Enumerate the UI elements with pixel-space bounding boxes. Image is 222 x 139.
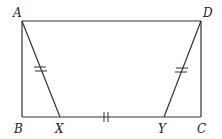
label-C: C bbox=[197, 122, 206, 136]
label-D: D bbox=[202, 6, 213, 20]
geometry-diagram: A D B X Y C bbox=[0, 0, 222, 139]
label-A: A bbox=[12, 6, 22, 20]
segment-DY bbox=[164, 21, 201, 117]
label-B: B bbox=[13, 122, 23, 136]
label-Y: Y bbox=[158, 122, 167, 136]
label-X: X bbox=[54, 122, 64, 136]
segment-AX bbox=[22, 21, 60, 117]
